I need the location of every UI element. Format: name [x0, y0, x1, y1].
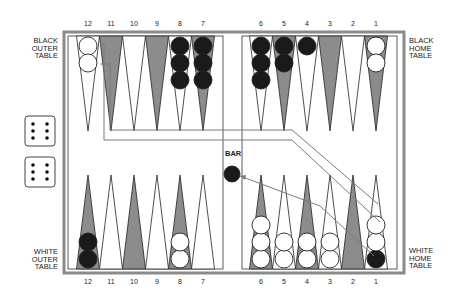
die-pip	[45, 136, 49, 140]
white-checker	[367, 54, 385, 72]
white-checker	[171, 233, 189, 251]
die-pip	[45, 122, 49, 126]
die-pip	[31, 129, 35, 133]
point-number: 12	[81, 278, 95, 285]
point-number: 2	[346, 278, 360, 285]
white-checker	[367, 233, 385, 251]
die-pip	[31, 177, 35, 181]
point-number: 6	[254, 20, 268, 27]
die-pip	[45, 177, 49, 181]
black-checker	[171, 54, 189, 72]
label-line: TABLE	[14, 263, 58, 271]
white-checker	[275, 233, 293, 251]
die-pip	[31, 122, 35, 126]
white-checker	[321, 233, 339, 251]
black-checker	[275, 54, 293, 72]
black-checker	[171, 71, 189, 89]
black-checker	[194, 71, 212, 89]
black-checker	[194, 37, 212, 55]
black-checker	[79, 250, 97, 268]
bar-label: BAR	[225, 149, 241, 158]
label-line: TABLE	[409, 52, 453, 60]
point-number: 3	[323, 278, 337, 285]
white-checker	[275, 250, 293, 268]
point-number: 6	[254, 278, 268, 285]
label-line: TABLE	[14, 52, 58, 60]
point-number: 3	[323, 20, 337, 27]
point-number: 11	[104, 278, 118, 285]
point-number: 4	[300, 278, 314, 285]
die-1	[25, 116, 55, 146]
black-checker	[252, 37, 270, 55]
point-number: 1	[369, 278, 383, 285]
label-black-home-table: BLACK HOME TABLE	[409, 37, 453, 60]
die-pip	[31, 170, 35, 174]
black-checker	[171, 37, 189, 55]
label-line: TABLE	[409, 262, 453, 270]
point-number: 7	[196, 278, 210, 285]
die-pip	[45, 170, 49, 174]
black-checker	[367, 250, 385, 268]
white-checker	[321, 250, 339, 268]
white-checker	[79, 37, 97, 55]
point-number: 12	[81, 20, 95, 27]
die-pip	[45, 129, 49, 133]
black-checker	[275, 37, 293, 55]
die-pip	[31, 136, 35, 140]
black-checker	[194, 54, 212, 72]
point-number: 2	[346, 20, 360, 27]
label-black-outer-table: BLACK OUTER TABLE	[14, 37, 58, 60]
point-number: 8	[173, 278, 187, 285]
point-number: 4	[300, 20, 314, 27]
white-checker	[79, 54, 97, 72]
white-checker	[252, 250, 270, 268]
black-checker-on-bar	[224, 166, 240, 182]
point-number: 7	[196, 20, 210, 27]
label-white-home-table: WHITE HOME TABLE	[409, 247, 453, 270]
die-pip	[45, 163, 49, 167]
point-number: 11	[104, 20, 118, 27]
point-number: 9	[150, 278, 164, 285]
point-number: 8	[173, 20, 187, 27]
white-checker	[367, 37, 385, 55]
black-checker	[252, 54, 270, 72]
white-checker	[252, 233, 270, 251]
die-pip	[31, 163, 35, 167]
point-number: 10	[127, 278, 141, 285]
point-number: 1	[369, 20, 383, 27]
point-number: 10	[127, 20, 141, 27]
black-checker	[298, 37, 316, 55]
point-number: 5	[277, 278, 291, 285]
black-checker	[252, 71, 270, 89]
label-white-outer-table: WHITE OUTER TABLE	[14, 248, 58, 271]
black-checker	[79, 233, 97, 251]
die-2	[25, 157, 55, 187]
white-checker	[298, 250, 316, 268]
white-checker	[298, 233, 316, 251]
white-checker	[252, 216, 270, 234]
point-number: 5	[277, 20, 291, 27]
point-number: 9	[150, 20, 164, 27]
white-checker	[171, 250, 189, 268]
